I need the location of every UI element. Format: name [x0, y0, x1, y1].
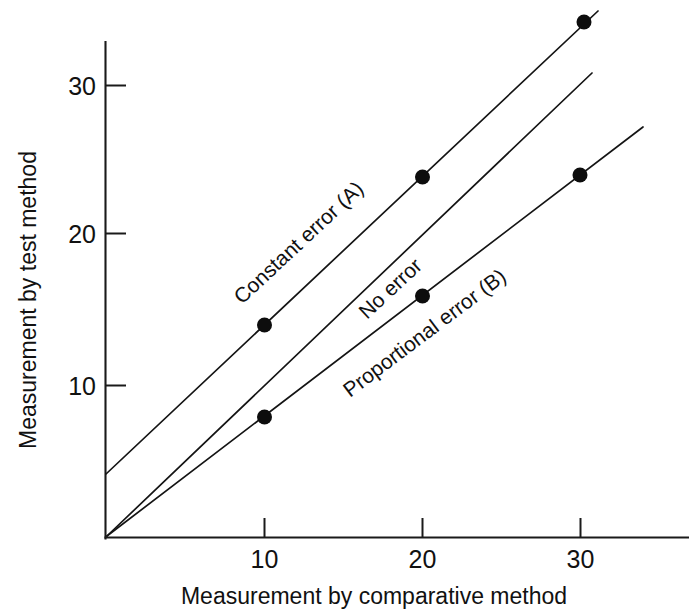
- series-line-proportional-error: [107, 127, 643, 536]
- method-comparison-chart: 30 20 10 10 20 30 Measurement by compara…: [0, 0, 689, 614]
- series-label-proportional-error: Proportional error (B): [339, 264, 510, 401]
- x-tick-label-10: 10: [251, 545, 279, 573]
- x-tick-label-20: 20: [409, 545, 437, 573]
- y-tick-label-10: 10: [68, 372, 96, 400]
- y-axis-title: Measurement by test method: [15, 151, 41, 449]
- x-tick-label-30: 30: [567, 545, 595, 573]
- y-tick-label-20: 20: [68, 220, 96, 248]
- series-label-no-error: No error: [354, 254, 426, 323]
- series-line-no-error: [107, 73, 592, 536]
- series-label-constant-error: Constant error (A): [229, 176, 368, 307]
- data-point-constant-30: [577, 15, 592, 30]
- series-line-constant-error: [106, 11, 598, 474]
- y-tick-label-30: 30: [68, 72, 96, 100]
- data-point-constant-10: [257, 318, 272, 333]
- x-axis-title: Measurement by comparative method: [181, 583, 567, 609]
- chart-canvas: 30 20 10 10 20 30 Measurement by compara…: [0, 0, 689, 614]
- data-point-proportional-30: [573, 168, 588, 183]
- data-point-constant-20: [415, 170, 430, 185]
- data-point-proportional-10: [257, 410, 272, 425]
- data-point-proportional-20: [415, 289, 430, 304]
